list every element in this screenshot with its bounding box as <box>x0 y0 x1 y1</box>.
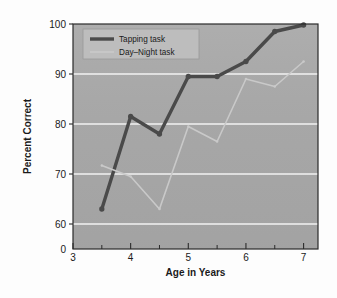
y-axis: 607080901000 <box>49 19 73 255</box>
data-point <box>99 206 104 211</box>
legend: Tapping taskDay–Night task <box>83 29 199 59</box>
y-tick-label: 60 <box>55 219 67 230</box>
x-tick-label: 7 <box>301 252 307 263</box>
x-tick-label: 5 <box>186 252 192 263</box>
legend-label: Day–Night task <box>119 48 175 57</box>
data-point <box>216 140 219 143</box>
data-point <box>214 74 219 79</box>
y-tick-label-zero: 0 <box>60 244 66 255</box>
y-tick-label: 80 <box>55 119 67 130</box>
line-chart: 607080901000Percent Correct34567Age in Y… <box>0 0 337 298</box>
data-point <box>101 164 104 167</box>
chart-figure: 607080901000Percent Correct34567Age in Y… <box>0 0 337 298</box>
data-point <box>129 175 132 178</box>
x-tick-label: 6 <box>243 252 249 263</box>
y-axis-title: Percent Correct <box>22 98 33 174</box>
y-tick-label: 100 <box>49 19 66 30</box>
x-tick-label: 3 <box>70 252 76 263</box>
y-tick-label: 70 <box>55 169 67 180</box>
y-tick-label: 90 <box>55 69 67 80</box>
data-point <box>186 74 191 79</box>
data-point <box>243 59 248 64</box>
data-point <box>158 208 161 211</box>
data-point <box>128 114 133 119</box>
legend-label: Tapping task <box>119 35 166 44</box>
data-point <box>302 60 305 63</box>
data-point <box>272 29 277 34</box>
data-point <box>187 125 190 128</box>
x-axis-title: Age in Years <box>166 267 226 278</box>
data-point <box>245 78 248 81</box>
data-point <box>274 85 277 88</box>
data-point <box>157 131 162 136</box>
data-point <box>301 22 306 27</box>
x-tick-label: 4 <box>128 252 134 263</box>
